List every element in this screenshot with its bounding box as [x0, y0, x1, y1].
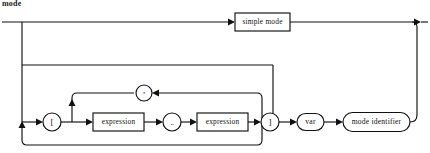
arrow-into-simple-mode — [228, 19, 235, 26]
node-expression-1-label: expression — [102, 117, 136, 126]
arrow-into-expression-1 — [86, 119, 93, 126]
arrow-into-expression-2 — [190, 119, 197, 126]
arrow-diagram-exit — [414, 19, 421, 26]
arrow-into-var — [290, 119, 297, 126]
railroad-diagram: mode [ , — [0, 0, 430, 153]
arrow-comma-loop-enter — [69, 99, 76, 106]
node-mode-identifier-label: mode identifier — [352, 117, 402, 126]
arrow-into-lbracket — [36, 119, 43, 126]
node-simple-mode-label: simple mode — [242, 17, 282, 26]
arrow-into-dotdot — [156, 119, 163, 126]
arrow-into-mode-identifier — [336, 119, 343, 126]
node-dotdot-label: .. — [171, 118, 175, 127]
railroad-canvas: [ , expression .. expression ] — [0, 0, 430, 153]
node-var-label: var — [305, 117, 316, 126]
node-expression-2-label: expression — [206, 117, 240, 126]
node-comma-label: , — [143, 85, 145, 95]
arrow-into-rbracket — [254, 119, 261, 126]
arrow-into-comma — [152, 90, 159, 97]
node-rbracket-label: ] — [269, 117, 272, 127]
node-lbracket-label: [ — [51, 117, 54, 127]
track-right-return-to-top — [410, 22, 417, 122]
